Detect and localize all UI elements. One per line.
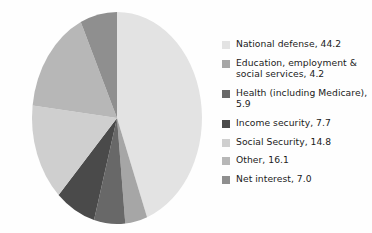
legend-item[interactable]: Net interest, 7.0 (222, 173, 372, 185)
legend-item-label: Net interest, 7.0 (236, 173, 312, 185)
legend-item[interactable]: Other, 16.1 (222, 154, 372, 166)
legend-item-label: National defense, 44.2 (236, 38, 341, 50)
legend-item-label: Health (including Medicare), 5.9 (236, 87, 367, 110)
legend-item[interactable]: Health (including Medicare), 5.9 (222, 87, 372, 110)
legend-swatch-icon (222, 176, 230, 184)
pie-chart-svg (0, 0, 215, 233)
legend-item[interactable]: Education, employment & social services,… (222, 57, 372, 80)
legend-swatch-icon (222, 157, 230, 165)
legend-item-label: Income security, 7.7 (236, 117, 331, 129)
pie-chart-area (0, 0, 215, 233)
chart-legend: National defense, 44.2 Education, employ… (222, 38, 372, 191)
legend-swatch-icon (222, 90, 230, 98)
legend-item[interactable]: National defense, 44.2 (222, 38, 372, 50)
legend-swatch-icon (222, 41, 230, 49)
legend-item-label: Social Security, 14.8 (236, 136, 331, 148)
legend-swatch-icon (222, 139, 230, 147)
legend-item[interactable]: Income security, 7.7 (222, 117, 372, 129)
legend-item-label: Other, 16.1 (236, 154, 289, 166)
legend-swatch-icon (222, 60, 230, 68)
legend-swatch-icon (222, 120, 230, 128)
legend-item-label: Education, employment & social services,… (236, 57, 357, 80)
chart-figure: National defense, 44.2 Education, employ… (0, 0, 372, 233)
legend-item[interactable]: Social Security, 14.8 (222, 136, 372, 148)
